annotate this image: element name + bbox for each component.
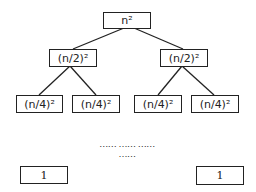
ellipsis-dots: …… …… …… …… (95, 139, 159, 159)
level1-label-left: (n/2)² (58, 53, 89, 64)
level1-node-right: (n/2)² (160, 49, 208, 67)
leaf-node-right: 1 (196, 166, 244, 185)
root-node: n² (103, 12, 151, 29)
leaf-label-right: 1 (217, 170, 224, 181)
level2-label-2: (n/4)² (81, 99, 112, 110)
edge-l1-right-b (182, 66, 214, 95)
level2-node-2: (n/4)² (72, 95, 120, 113)
edge-l1-left-b (70, 66, 96, 95)
level2-label-1: (n/4)² (24, 99, 55, 110)
level2-node-3: (n/4)² (134, 95, 182, 113)
level2-node-1: (n/4)² (16, 95, 63, 113)
edge-l1-left-a (39, 66, 70, 95)
level2-node-4: (n/4)² (191, 95, 239, 113)
edge-l1-right-a (158, 66, 182, 95)
level1-node-left: (n/2)² (49, 49, 97, 67)
level1-label-right: (n/2)² (169, 53, 200, 64)
edge-root-left (73, 28, 124, 49)
leaf-node-left: 1 (20, 166, 68, 184)
level2-label-4: (n/4)² (200, 99, 231, 110)
level2-label-3: (n/4)² (143, 99, 174, 110)
root-label: n² (121, 15, 132, 26)
edge-root-right (134, 28, 183, 49)
leaf-label-left: 1 (41, 170, 48, 181)
